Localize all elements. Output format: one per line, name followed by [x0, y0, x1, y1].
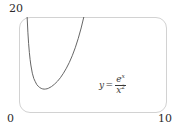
fraction-denominator: x2	[115, 86, 126, 95]
equation-lhs: y	[99, 81, 104, 90]
fraction: ex x2	[115, 75, 126, 96]
curve-plot	[19, 17, 167, 113]
axis-origin-label: 0	[7, 113, 14, 124]
function-curve	[27, 17, 90, 89]
equals-sign: =	[106, 81, 114, 90]
numerator-exponent: x	[122, 72, 125, 79]
x-axis-max-label: 10	[158, 113, 172, 124]
denominator-exponent: 2	[121, 83, 125, 90]
chart-figure: 20 0 10 y = ex x2	[0, 0, 182, 133]
y-axis-max-label: 20	[9, 3, 23, 14]
equation-annotation: y = ex x2	[99, 75, 126, 96]
